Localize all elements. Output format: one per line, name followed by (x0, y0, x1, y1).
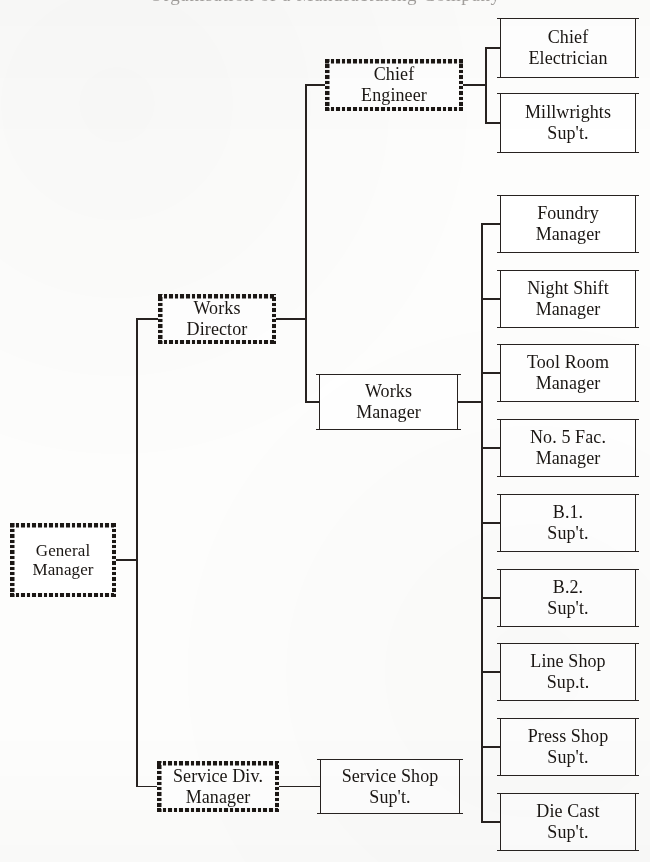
org-node-service-div-manager[interactable]: Service Div. Manager (157, 761, 279, 812)
connector-wm-to-foundry-manager (481, 223, 500, 225)
org-node-night-shift-manager[interactable]: Night Shift Manager (500, 271, 636, 327)
connector-gm-stub (116, 559, 137, 561)
org-node-label: Die Cast Sup't. (533, 801, 602, 842)
connector-wd-trunk (305, 86, 307, 403)
org-node-works-director[interactable]: Works Director (158, 294, 276, 344)
connector-gm-to-works-director (136, 318, 158, 320)
org-node-millwrights-supt[interactable]: Millwrights Sup't. (500, 94, 636, 152)
org-node-no5-fac-manager[interactable]: No. 5 Fac. Manager (500, 420, 636, 476)
connector-wm-to-die-cast-supt (481, 821, 500, 823)
connector-ce-stub (463, 84, 485, 86)
org-node-label: Works Director (178, 298, 257, 339)
org-node-label: Press Shop Sup't. (525, 726, 612, 767)
org-node-label: Line Shop Sup.t. (527, 651, 608, 692)
org-node-label: No. 5 Fac. Manager (527, 427, 609, 468)
org-node-works-manager[interactable]: Works Manager (319, 375, 458, 429)
connector-wm-to-press-shop-supt (481, 746, 500, 748)
org-node-label: Chief Engineer (352, 64, 436, 105)
connector-wd-to-works-manager (305, 401, 319, 403)
org-node-label: Night Shift Manager (524, 278, 612, 319)
org-node-label: Millwrights Sup't. (522, 102, 614, 143)
org-node-tool-room-manager[interactable]: Tool Room Manager (500, 345, 636, 401)
org-node-label: Works Manager (353, 381, 424, 422)
connector-wm-to-night-shift-manager (481, 298, 500, 300)
connector-ce-trunk (485, 48, 487, 124)
connector-wd-to-chief-engineer (305, 84, 325, 86)
connector-sd-to-service-shop-supt (279, 786, 320, 788)
connector-wm-to-line-shop-supt (481, 671, 500, 673)
org-node-label: B.1. Sup't. (544, 502, 591, 543)
org-node-label: B.2. Sup't. (544, 577, 591, 618)
connector-gm-trunk (136, 320, 138, 787)
org-node-label: Chief Electrician (525, 27, 610, 68)
org-node-b2-supt[interactable]: B.2. Sup't. (500, 570, 636, 626)
org-node-die-cast-supt[interactable]: Die Cast Sup't. (500, 794, 636, 850)
connector-ce-to-millwrights-supt (485, 122, 500, 124)
org-node-label: General Manager (23, 541, 102, 580)
org-node-chief-electrician[interactable]: Chief Electrician (500, 19, 636, 77)
org-node-foundry-manager[interactable]: Foundry Manager (500, 196, 636, 252)
org-node-service-shop-supt[interactable]: Service Shop Sup't. (320, 760, 460, 813)
connector-wm-to-b2-supt (481, 597, 500, 599)
connector-wm-to-b1-supt (481, 522, 500, 524)
connector-wd-stub (276, 318, 305, 320)
org-chart-page: Organisation of a Manufacturing Company … (0, 0, 650, 862)
page-title-sliver: Organisation of a Manufacturing Company (0, 0, 650, 9)
org-node-general-manager[interactable]: General Manager (10, 523, 116, 597)
connector-ce-to-chief-electrician (485, 47, 500, 49)
org-node-chief-engineer[interactable]: Chief Engineer (325, 59, 463, 111)
connector-wm-to-no5-fac-manager (481, 447, 500, 449)
org-node-label: Service Shop Sup't. (339, 766, 442, 807)
connector-wm-to-tool-room-manager (481, 372, 500, 374)
org-node-line-shop-supt[interactable]: Line Shop Sup.t. (500, 644, 636, 700)
org-node-label: Foundry Manager (533, 203, 604, 244)
org-node-press-shop-supt[interactable]: Press Shop Sup't. (500, 719, 636, 775)
connector-gm-to-service-div-manager (136, 786, 157, 788)
org-node-b1-supt[interactable]: B.1. Sup't. (500, 495, 636, 551)
org-node-label: Service Div. Manager (164, 766, 272, 807)
org-node-label: Tool Room Manager (524, 352, 612, 393)
connector-wm-stub (458, 401, 481, 403)
